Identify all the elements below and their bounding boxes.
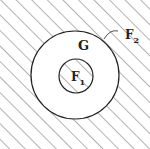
diagram-canvas: G F2 F1 bbox=[0, 0, 150, 149]
region-diagram: G F2 F1 bbox=[0, 0, 150, 149]
label-g: G bbox=[78, 38, 89, 53]
